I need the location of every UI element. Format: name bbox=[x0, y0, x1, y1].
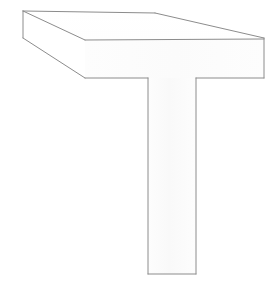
stem-front-face bbox=[148, 78, 196, 274]
t-block-drawing bbox=[0, 0, 270, 283]
slab-front-face bbox=[85, 38, 264, 78]
figure-canvas bbox=[0, 0, 270, 283]
block-faces bbox=[23, 11, 264, 274]
